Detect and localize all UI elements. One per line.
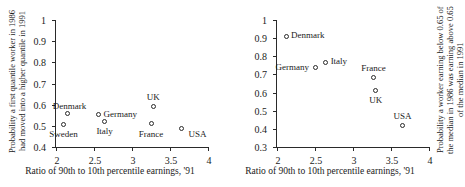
data-point-label: Germany: [104, 110, 138, 119]
x-axis-tick: 2: [56, 147, 57, 151]
data-point-marker: [61, 122, 66, 127]
x-axis-tick: 3: [132, 147, 133, 151]
x-axis-tick-label: 2: [55, 156, 60, 166]
x-axis-tick-label: 3.5: [386, 156, 399, 166]
y-axis-tick-label: 0.6: [255, 89, 268, 99]
x-axis-tick-label: 3: [131, 156, 136, 166]
data-point-marker: [323, 60, 328, 65]
plot-area-right: 0.30.40.50.60.70.80.9122.533.54DenmarkGe…: [276, 20, 429, 148]
y-axis-tick: 1: [273, 20, 277, 21]
data-point-marker: [151, 104, 156, 109]
data-point-marker: [400, 123, 405, 128]
y-axis-tick-label: 0.8: [255, 52, 268, 62]
y-axis-tick: 0.5: [273, 111, 277, 112]
data-point-label: USA: [188, 130, 206, 139]
y-axis-tick-label: 0.5: [255, 107, 268, 117]
y-axis-title-left: Probability a first quantile worker in 1…: [8, 6, 28, 156]
data-point-label: France: [139, 130, 164, 139]
chart-panel-right: Probability a worker earning below 0.65 …: [220, 0, 440, 187]
y-axis-tick: 0.5: [52, 126, 56, 127]
y-axis-title-right: Probability a worker earning below 0.65 …: [436, 2, 465, 158]
x-axis-tick-label: 2.5: [310, 156, 323, 166]
x-axis-title-right: Ratio of 90th to 10th percentile earning…: [220, 166, 440, 176]
y-axis-tick-label: 0.4: [255, 125, 268, 135]
chart-panel-left: Probability a first quantile worker in 1…: [0, 0, 220, 187]
x-axis-tick-label: 3.5: [165, 156, 178, 166]
y-axis-tick: 1: [52, 20, 56, 21]
x-axis-tick-label: 4: [207, 156, 212, 166]
plot-area-left: 0.40.50.60.70.80.9122.533.54DenmarkSwede…: [55, 20, 208, 148]
x-axis-title-left: Ratio of 90th to 10th percentile earning…: [0, 166, 220, 176]
data-point-label: France: [361, 64, 386, 73]
data-point-marker: [373, 88, 378, 93]
y-axis-tick-label: 0.9: [34, 37, 47, 47]
data-point-marker: [149, 121, 154, 126]
data-point-label: UK: [147, 93, 160, 102]
data-point-label: Germany: [276, 63, 310, 72]
y-axis-title-line: had moved into a higher quantile in 1991: [18, 6, 28, 156]
y-axis-tick-label: 0.7: [34, 80, 47, 90]
data-point-marker: [313, 65, 318, 70]
y-axis-tick: 0.8: [52, 62, 56, 63]
data-point-label: Italy: [96, 127, 113, 136]
y-axis-tick: 0.6: [273, 93, 277, 94]
data-point-marker: [179, 126, 184, 131]
y-axis-tick-label: 0.5: [34, 122, 47, 132]
data-point-marker: [284, 34, 289, 39]
x-axis-tick: 3.5: [391, 147, 392, 151]
y-axis-tick-label: 0.6: [34, 101, 47, 111]
data-point-marker: [96, 112, 101, 117]
x-axis-tick: 2.5: [94, 147, 95, 151]
x-axis-tick: 2: [277, 147, 278, 151]
y-axis-tick: 0.8: [273, 56, 277, 57]
y-axis-tick-label: 0.8: [34, 58, 47, 68]
y-axis-tick: 0.7: [52, 84, 56, 85]
x-axis-tick: 4: [208, 147, 209, 151]
data-point-marker: [65, 111, 70, 116]
x-axis-tick-label: 4: [428, 156, 433, 166]
data-point-label: USA: [393, 112, 411, 121]
data-point-marker: [102, 119, 107, 124]
y-axis-tick-label: 0.9: [255, 34, 268, 44]
x-axis-tick: 2.5: [315, 147, 316, 151]
data-point-label: Denmark: [53, 102, 87, 111]
data-point-label: UK: [369, 96, 382, 105]
x-axis-tick: 3.5: [170, 147, 171, 151]
y-axis-tick-label: 1: [41, 16, 46, 26]
x-axis-tick: 3: [353, 147, 354, 151]
y-axis-tick: 0.9: [52, 41, 56, 42]
data-point-label: Sweden: [49, 130, 78, 139]
x-axis-tick-label: 2: [276, 156, 281, 166]
y-axis-tick: 0.4: [273, 129, 277, 130]
x-axis-tick-label: 2.5: [89, 156, 102, 166]
data-point-label: Denmark: [291, 31, 325, 40]
x-axis-tick-label: 3: [352, 156, 357, 166]
x-axis-tick: 4: [429, 147, 430, 151]
y-axis-tick: 0.7: [273, 74, 277, 75]
y-axis-tick: 0.9: [273, 38, 277, 39]
y-axis-tick-label: 0.4: [34, 143, 47, 153]
y-axis-title-line: of the median in 1991: [456, 2, 465, 158]
y-axis-tick-label: 1: [262, 16, 267, 26]
y-axis-tick-label: 0.3: [255, 143, 268, 153]
data-point-label: Italy: [331, 57, 348, 66]
y-axis-tick-label: 0.7: [255, 70, 268, 80]
data-point-marker: [371, 75, 376, 80]
